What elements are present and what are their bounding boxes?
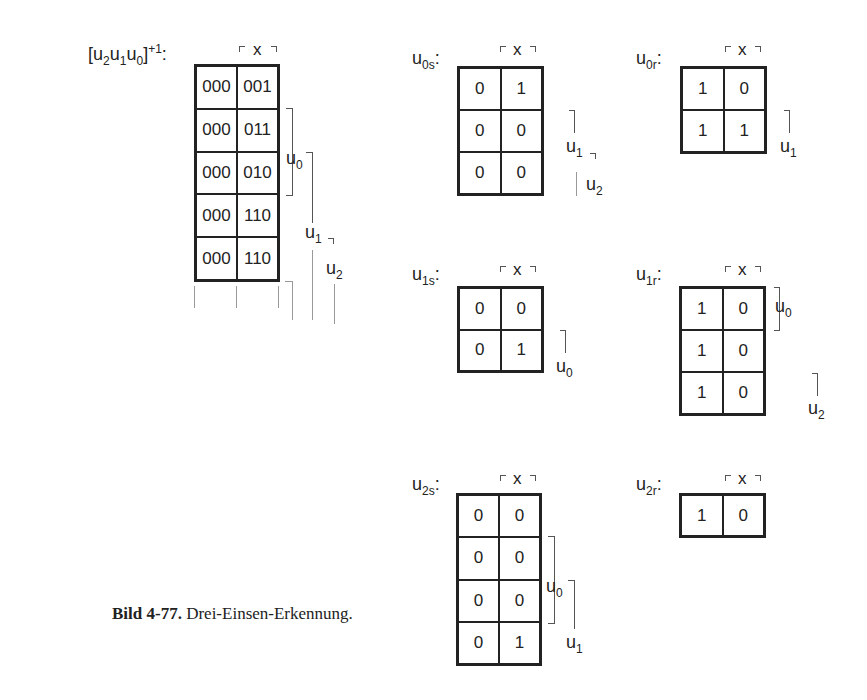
cell: 010 xyxy=(237,152,278,195)
cell: 1 xyxy=(681,330,723,372)
u1r-u0-label: u0 xyxy=(775,296,792,320)
caption-label: Bild 4-77. xyxy=(112,604,182,623)
cell: 0 xyxy=(458,537,499,579)
cell: 0 xyxy=(499,580,540,622)
cell: 0 xyxy=(723,288,765,330)
u0r-u1-label: u1 xyxy=(780,136,797,160)
u2s-grid: 0 0 0 0 0 0 0 1 xyxy=(456,493,542,666)
main-map-label: [u2u1u0]+1: xyxy=(88,42,167,68)
cell: 1 xyxy=(681,288,723,330)
cell: 000 xyxy=(196,66,237,109)
cell: 1 xyxy=(501,68,543,110)
cell: 0 xyxy=(724,68,766,110)
u2r-grid: 1 0 xyxy=(679,493,766,538)
main-map-grid: 000 001 000 011 000 010 000 110 000 110 xyxy=(194,64,280,282)
cell: 1 xyxy=(499,622,540,664)
u1s-label: u1s: xyxy=(412,264,440,288)
cell: 0 xyxy=(458,495,499,537)
u1s-x-label: x xyxy=(513,260,522,280)
u1s-grid: 0 0 0 1 xyxy=(457,286,544,373)
cell: 001 xyxy=(237,66,278,109)
cell: 110 xyxy=(237,194,278,237)
guide-line xyxy=(312,250,313,320)
cell: 0 xyxy=(459,68,501,110)
cell: 000 xyxy=(196,109,237,152)
cell: 0 xyxy=(499,495,540,537)
cell: 000 xyxy=(196,152,237,195)
cell: 0 xyxy=(501,288,543,330)
main-u0-label: u0 xyxy=(286,148,303,172)
u2r-label: u2r: xyxy=(636,474,662,498)
u2s-x-label: x xyxy=(513,469,522,489)
guide-line xyxy=(285,281,293,320)
main-u1-label: u1 xyxy=(305,222,322,246)
cell: 0 xyxy=(459,110,501,152)
u0-bracket xyxy=(560,330,566,353)
u0r-grid: 1 0 1 1 xyxy=(680,66,767,154)
u2r-x-label: x xyxy=(738,469,747,489)
u1r-label: u1r: xyxy=(636,264,662,288)
u0s-x-label: x xyxy=(513,40,522,60)
cell: 0 xyxy=(458,580,499,622)
guide-line xyxy=(334,284,335,324)
u2-bracket xyxy=(590,153,596,159)
cell: 1 xyxy=(501,330,543,372)
u2-bracket xyxy=(812,373,818,396)
u0r-x-label: x xyxy=(738,40,747,60)
u2s-label: u2s: xyxy=(412,474,440,498)
cell: 011 xyxy=(237,109,278,152)
u0s-u1-label: u1 xyxy=(566,136,583,160)
cell: 0 xyxy=(723,330,765,372)
u1r-u2-label: u2 xyxy=(808,398,825,422)
cell: 000 xyxy=(196,194,237,237)
u1r-grid: 1 0 1 0 1 0 xyxy=(679,286,766,416)
cell: 0 xyxy=(501,110,543,152)
cell: 0 xyxy=(458,622,499,664)
u0s-u2-label: u2 xyxy=(586,174,603,198)
cell: 0 xyxy=(459,330,501,372)
figure-caption: Bild 4-77. Drei-Einsen-Erkennung. xyxy=(112,604,353,624)
u2-bracket xyxy=(328,238,334,244)
cell: 1 xyxy=(682,110,724,152)
cell: 1 xyxy=(681,372,723,414)
u0r-label: u0r: xyxy=(636,48,662,72)
main-u2-label: u2 xyxy=(326,258,343,282)
cell: 0 xyxy=(459,288,501,330)
u1-bracket xyxy=(569,110,575,133)
guide-line xyxy=(278,286,279,308)
cell: 000 xyxy=(196,237,237,280)
u1s-u0-label: u0 xyxy=(556,356,573,380)
cell: 0 xyxy=(723,495,765,536)
cell: 0 xyxy=(499,537,540,579)
cell: 0 xyxy=(723,372,765,414)
u0s-label: u0s: xyxy=(412,48,440,72)
guide-line xyxy=(194,286,195,308)
u1-bracket xyxy=(784,110,790,133)
main-map-x-label: x xyxy=(253,40,262,60)
cell: 0 xyxy=(501,152,543,194)
u0s-grid: 0 1 0 0 0 0 xyxy=(457,66,544,196)
cell: 1 xyxy=(682,68,724,110)
u2s-u0-label: u0 xyxy=(546,576,563,600)
cell: 110 xyxy=(237,237,278,280)
cell: 0 xyxy=(459,152,501,194)
u2s-u1-label: u1 xyxy=(566,632,583,656)
guide-line xyxy=(236,286,237,308)
u1r-x-label: x xyxy=(738,260,747,280)
guide-line xyxy=(576,172,577,196)
cell: 1 xyxy=(724,110,766,152)
u1-bracket xyxy=(568,580,575,629)
cell: 1 xyxy=(681,495,723,536)
u1-bracket xyxy=(306,152,313,223)
caption-text: Drei-Einsen-Erkennung. xyxy=(182,604,353,623)
